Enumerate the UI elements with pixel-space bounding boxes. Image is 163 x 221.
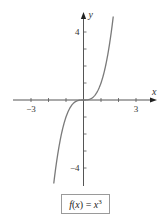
y-axis-arrow-icon [81,12,86,19]
y-tick-label: 4 [75,27,80,37]
function-label: f(x) = x3 [69,199,102,210]
y-axis-label: y [88,9,94,20]
function-exponent: 3 [98,198,102,206]
x-axis-label: x [151,86,157,97]
x-axis-arrow-icon [150,97,157,102]
axes [13,12,157,186]
x-tick-label: −3 [26,104,36,114]
cubic-function-graph: −334−4 x y [0,0,163,221]
function-label-box: f(x) = x3 [61,194,110,214]
y-tick-label: −4 [70,163,80,173]
x-tick-label: 3 [134,104,139,114]
function-eq: ) = [80,199,94,210]
